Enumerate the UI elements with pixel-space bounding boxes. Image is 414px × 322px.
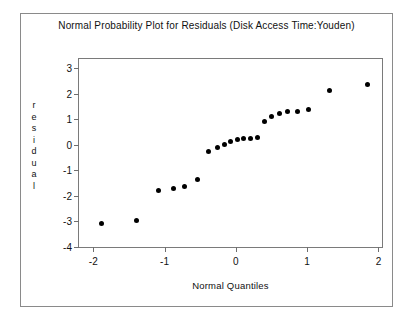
data-point bbox=[228, 139, 233, 144]
x-axis-tick-label: 2 bbox=[376, 256, 382, 267]
x-axis-tick bbox=[236, 247, 237, 252]
data-point bbox=[99, 221, 104, 226]
y-axis-tick bbox=[74, 119, 79, 120]
y-axis-tick bbox=[74, 196, 79, 197]
data-point bbox=[235, 137, 240, 142]
data-point bbox=[206, 149, 211, 154]
y-axis-title-letter: u bbox=[28, 158, 40, 170]
data-point bbox=[365, 82, 370, 87]
y-axis-tick-label: -4 bbox=[63, 242, 72, 253]
data-point bbox=[171, 186, 176, 191]
y-axis-tick bbox=[74, 247, 79, 248]
scatter-points-layer bbox=[79, 59, 382, 247]
x-axis-tick-label: 0 bbox=[233, 256, 239, 267]
plot-area: -4-3-2-10123-2-1012 bbox=[78, 58, 383, 248]
data-point bbox=[262, 119, 267, 124]
y-axis-tick bbox=[74, 68, 79, 69]
x-axis-tick-label: -1 bbox=[160, 256, 169, 267]
data-point bbox=[327, 88, 332, 93]
y-axis-tick-label: -3 bbox=[63, 216, 72, 227]
y-axis-title-letter: l bbox=[28, 181, 40, 193]
y-axis-title-letter: e bbox=[28, 112, 40, 124]
x-axis-tick bbox=[93, 247, 94, 252]
y-axis-tick-label: -1 bbox=[63, 165, 72, 176]
chart-title: Normal Probability Plot for Residuals (D… bbox=[20, 20, 393, 31]
y-axis-tick-label: 1 bbox=[66, 114, 72, 125]
data-point bbox=[241, 136, 246, 141]
data-point bbox=[295, 109, 300, 114]
data-point bbox=[248, 136, 253, 141]
y-axis-tick-label: -2 bbox=[63, 190, 72, 201]
y-axis-tick-label: 2 bbox=[66, 88, 72, 99]
data-point bbox=[182, 184, 187, 189]
data-point bbox=[215, 145, 220, 150]
y-axis-title-letter: r bbox=[28, 100, 40, 112]
data-point bbox=[269, 114, 274, 119]
y-axis-tick-label: 3 bbox=[66, 62, 72, 73]
data-point bbox=[156, 188, 161, 193]
y-axis-title-letter: a bbox=[28, 169, 40, 181]
data-point bbox=[306, 107, 311, 112]
y-axis-tick bbox=[74, 145, 79, 146]
x-axis-title: Normal Quantiles bbox=[78, 280, 383, 291]
x-axis-tick-label: -2 bbox=[89, 256, 98, 267]
y-axis-title: residual bbox=[28, 100, 40, 192]
y-axis-title-letter: d bbox=[28, 146, 40, 158]
x-axis-tick-label: 1 bbox=[304, 256, 310, 267]
x-axis-tick bbox=[165, 247, 166, 252]
data-point bbox=[222, 142, 227, 147]
x-axis-tick bbox=[307, 247, 308, 252]
data-point bbox=[285, 109, 290, 114]
y-axis-tick bbox=[74, 170, 79, 171]
y-axis-title-letter: i bbox=[28, 135, 40, 147]
data-point bbox=[134, 218, 139, 223]
data-point bbox=[195, 177, 200, 182]
data-point bbox=[255, 135, 260, 140]
y-axis-tick bbox=[74, 94, 79, 95]
data-point bbox=[277, 111, 282, 116]
y-axis-tick-label: 0 bbox=[66, 139, 72, 150]
y-axis-title-letter: s bbox=[28, 123, 40, 135]
x-axis-tick bbox=[378, 247, 379, 252]
normal-probability-plot-figure: Normal Probability Plot for Residuals (D… bbox=[0, 0, 414, 322]
y-axis-tick bbox=[74, 221, 79, 222]
